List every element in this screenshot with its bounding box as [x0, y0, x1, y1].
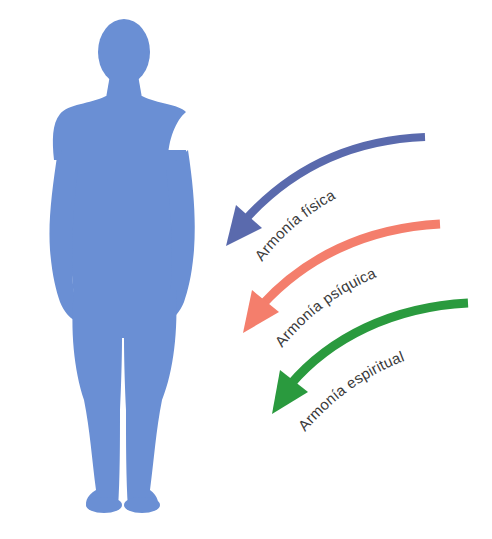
diagram-canvas: Armonía física Armonía psíquica Armonía …: [0, 0, 492, 539]
human-figure: [49, 19, 194, 513]
